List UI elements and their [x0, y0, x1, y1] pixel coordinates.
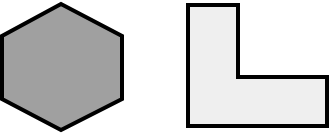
l-shape — [188, 5, 327, 126]
diagram-canvas — [0, 0, 333, 133]
hexagon-shape — [2, 4, 122, 130]
shapes-svg — [0, 0, 333, 133]
